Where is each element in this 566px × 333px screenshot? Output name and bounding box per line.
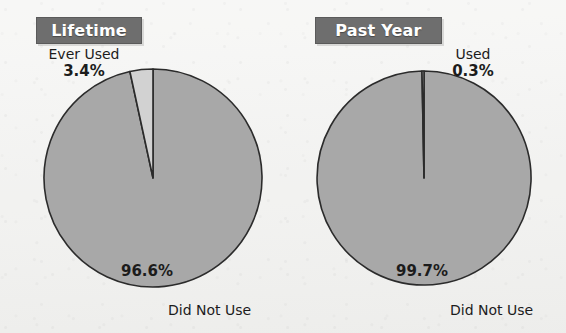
callout-category-label: Ever Used <box>41 47 127 63</box>
callout-category-label: Used <box>440 47 506 63</box>
panel-title-lifetime: Lifetime <box>36 17 142 44</box>
bottom-label-did-not-use: Did Not Use <box>168 302 251 318</box>
panel-title-past-year: Past Year <box>315 17 442 44</box>
chart-panel-past-year: Past Year Used 0.3% 99.7% Did Not Use <box>283 0 566 333</box>
callout-percent-value: 0.3% <box>440 63 506 80</box>
bottom-label-did-not-use: Did Not Use <box>450 302 533 318</box>
callout-percent-value: 3.4% <box>41 63 127 80</box>
panel-title-text: Lifetime <box>51 21 127 40</box>
callout-used: Used 0.3% <box>440 47 506 79</box>
callout-ever-used: Ever Used 3.4% <box>41 47 127 79</box>
slice-percent-did-not-use: 96.6% <box>121 262 173 280</box>
chart-panel-lifetime: Lifetime Ever Used 3.4% 96.6% Did Not Us… <box>0 0 283 333</box>
pie-chart-figure: Lifetime Ever Used 3.4% 96.6% Did Not Us… <box>0 0 566 333</box>
panel-title-text: Past Year <box>335 21 421 40</box>
pie-chart-past-year <box>283 0 566 333</box>
slice-percent-did-not-use: 99.7% <box>396 262 448 280</box>
